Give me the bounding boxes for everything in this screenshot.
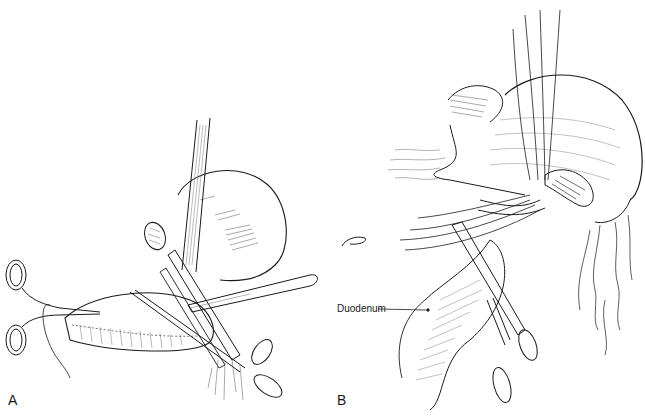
cropped-figure-caption <box>88 412 248 417</box>
duodenum-label: Duodenum <box>337 303 386 314</box>
surgical-illustration: A B Duodenum <box>0 0 645 417</box>
panel-label-a: A <box>8 392 17 408</box>
panel-label-b: B <box>337 392 346 408</box>
panel-a-drawing <box>0 0 330 417</box>
